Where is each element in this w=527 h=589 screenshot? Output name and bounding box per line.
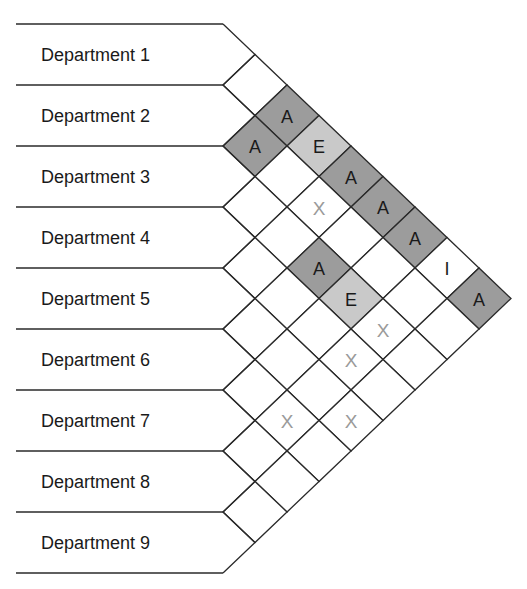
department-label: Department 8 (41, 472, 150, 492)
department-label: Department 4 (41, 228, 150, 248)
relationship-code: E (345, 290, 357, 310)
relationship-code: I (444, 259, 449, 279)
relationship-code: A (473, 290, 485, 310)
relationship-code: A (313, 259, 325, 279)
relationship-code: A (345, 168, 357, 188)
relationship-code: E (313, 137, 325, 157)
department-label: Department 5 (41, 289, 150, 309)
department-label: Department 6 (41, 350, 150, 370)
department-label: Department 9 (41, 533, 150, 553)
department-labels: Department 1Department 2Department 3Depa… (41, 45, 150, 553)
department-label: Department 7 (41, 411, 150, 431)
department-label: Department 2 (41, 106, 150, 126)
relationship-code: X (345, 350, 358, 371)
relationship-code: A (377, 198, 389, 218)
department-label: Department 3 (41, 167, 150, 187)
relationship-code: X (281, 411, 294, 432)
relationship-code: X (345, 411, 358, 432)
relationship-code: A (409, 229, 421, 249)
relationship-chart: Department 1Department 2Department 3Depa… (0, 0, 527, 589)
department-label: Department 1 (41, 45, 150, 65)
relationship-code: A (281, 107, 293, 127)
relationship-code: X (313, 198, 326, 219)
relationship-code: A (249, 137, 261, 157)
relationship-code: X (377, 320, 390, 341)
relationship-cells (223, 55, 511, 543)
